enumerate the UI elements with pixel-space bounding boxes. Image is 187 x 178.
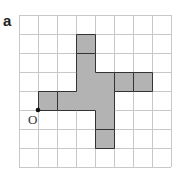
shaded-cell	[95, 91, 114, 110]
shaded-cell	[57, 91, 76, 110]
shaded-cell	[95, 110, 114, 129]
shaded-cell	[114, 72, 133, 91]
shaded-cell	[76, 91, 95, 110]
shaded-cell	[95, 129, 114, 148]
shaded-cell	[76, 53, 95, 72]
shaded-cell	[76, 34, 95, 53]
grid-diagram	[0, 0, 187, 178]
origin-label: O	[28, 112, 37, 128]
shaded-cell	[76, 72, 95, 91]
shaded-cell	[38, 91, 57, 110]
shaded-cell	[133, 72, 152, 91]
shaded-cell	[95, 72, 114, 91]
